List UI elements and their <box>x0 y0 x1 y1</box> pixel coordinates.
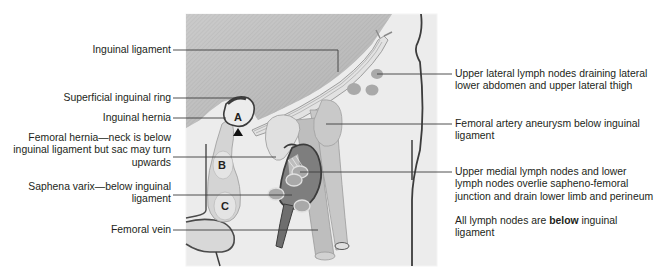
label-inguinal-ligament: Inguinal ligament <box>92 44 171 56</box>
label-all-lymph-nodes-note: All lymph nodes are below inguinal ligam… <box>455 215 617 240</box>
marker-C: C <box>221 200 229 212</box>
lymph-node <box>286 174 302 186</box>
label-inguinal-hernia: Inguinal hernia <box>103 112 171 124</box>
label-saphena-varix: Saphena varix—below inguinal ligament <box>28 181 171 206</box>
label-femoral-hernia: Femoral hernia—neck is below inguinal li… <box>13 132 171 169</box>
label-femoral-vein: Femoral vein <box>111 224 171 236</box>
label-upper-lateral-lymph-nodes: Upper lateral lymph nodes draining later… <box>455 68 647 93</box>
lymph-node <box>268 188 284 200</box>
marker-B: B <box>218 159 226 171</box>
label-femoral-artery-aneurysm: Femoral artery aneurysm below inguinal l… <box>455 118 640 143</box>
lymph-node <box>366 85 379 96</box>
scrotal-outline <box>186 219 234 252</box>
label-superficial-inguinal-ring: Superficial inguinal ring <box>64 92 171 104</box>
lymph-node <box>347 83 361 95</box>
lymph-node <box>294 200 310 212</box>
emphasis-below: below <box>549 215 578 226</box>
marker-A: A <box>234 111 242 123</box>
label-upper-medial-lymph-nodes: Upper medial lymph nodes and lower lymph… <box>455 166 653 203</box>
